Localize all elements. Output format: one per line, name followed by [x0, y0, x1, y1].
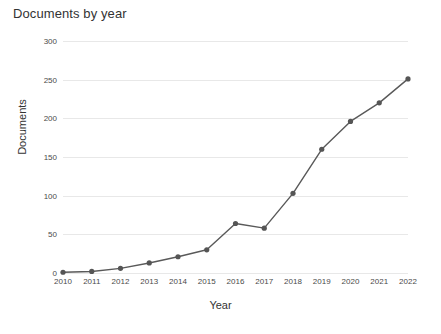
x-tick-label: 2017 — [255, 277, 273, 286]
data-point-marker — [233, 221, 238, 226]
series-line — [63, 79, 408, 272]
y-tick-label: 150 — [44, 153, 57, 162]
gridline — [63, 273, 408, 274]
x-tick-label: 2012 — [112, 277, 130, 286]
data-point-marker — [89, 269, 94, 274]
data-point-marker — [377, 100, 382, 105]
x-axis-tick-labels: 2010201120122013201420152016201720182019… — [63, 277, 408, 291]
x-tick-label: 2014 — [169, 277, 187, 286]
y-tick-label: 250 — [44, 75, 57, 84]
data-point-marker — [348, 119, 353, 124]
data-point-marker — [405, 76, 410, 81]
x-tick-label: 2013 — [140, 277, 158, 286]
y-tick-label: 300 — [44, 37, 57, 46]
x-axis-label: Year — [0, 299, 441, 311]
x-tick-label: 2010 — [54, 277, 72, 286]
chart-figure: Documents by year Documents 050100150200… — [0, 0, 441, 334]
chart-title: Documents by year — [13, 6, 127, 21]
x-tick-label: 2011 — [83, 277, 100, 286]
plot-area — [63, 41, 408, 273]
x-tick-label: 2020 — [342, 277, 360, 286]
data-point-marker — [319, 147, 324, 152]
data-point-marker — [175, 254, 180, 259]
y-axis-tick-labels: 050100150200250300 — [24, 41, 57, 273]
x-tick-label: 2022 — [399, 277, 417, 286]
data-point-marker — [204, 247, 209, 252]
data-point-marker — [118, 266, 123, 271]
x-tick-label: 2015 — [198, 277, 216, 286]
data-point-marker — [147, 260, 152, 265]
y-tick-label: 50 — [48, 230, 57, 239]
data-point-marker — [60, 270, 65, 275]
x-tick-label: 2019 — [313, 277, 331, 286]
y-tick-label: 100 — [44, 191, 57, 200]
y-tick-label: 200 — [44, 114, 57, 123]
x-tick-label: 2016 — [227, 277, 245, 286]
x-tick-label: 2021 — [370, 277, 388, 286]
line-series — [63, 41, 408, 273]
x-tick-label: 2018 — [284, 277, 302, 286]
data-point-marker — [262, 226, 267, 231]
data-point-marker — [290, 191, 295, 196]
